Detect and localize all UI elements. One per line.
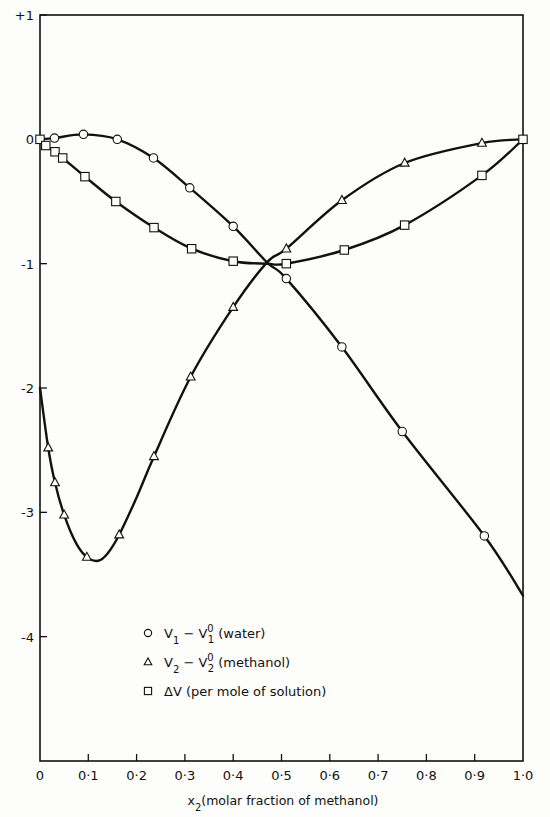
triangle-marker-icon	[60, 510, 69, 518]
x-tick-label: 0·9	[464, 768, 485, 783]
square-marker-icon	[59, 154, 67, 162]
x-tick-label: 0·3	[175, 768, 196, 783]
x-tick-label: 0·6	[319, 768, 340, 783]
y-tick-label: -4	[21, 630, 34, 645]
square-marker-icon	[187, 245, 195, 253]
square-marker-icon	[229, 257, 237, 265]
square-marker-icon	[51, 148, 59, 156]
x-tick-label: 0·7	[368, 768, 389, 783]
y-tick-label: +1	[15, 8, 34, 23]
x-tick-label: 0	[36, 768, 44, 783]
legend-label: V1 − V01 (water)	[164, 623, 265, 646]
circle-marker-icon	[480, 532, 488, 540]
x-tick-label: 0·1	[78, 768, 99, 783]
square-marker-icon	[400, 221, 408, 229]
plot-border	[40, 15, 523, 761]
x-tick-label: 0·8	[416, 768, 437, 783]
circle-marker-icon	[149, 154, 157, 162]
square-marker-icon	[42, 141, 50, 149]
square-marker-icon	[340, 246, 348, 254]
circle-marker-icon	[186, 184, 194, 192]
square-marker-icon	[81, 172, 89, 180]
legend-label: ΔV (per mole of solution)	[164, 684, 326, 699]
circle-marker-icon	[50, 134, 58, 142]
triangle-marker-icon	[51, 478, 60, 486]
x-axis-ticks: 00·10·20·30·40·50·60·70·80·91·0	[36, 754, 533, 783]
y-tick-label: -3	[21, 505, 34, 520]
x-axis-title-text: x2(molar fraction of methanol)	[187, 793, 378, 813]
square-marker-icon	[478, 171, 486, 179]
y-tick-label: -2	[21, 381, 34, 396]
triangle-marker-icon	[44, 443, 53, 451]
y-tick-label: 0	[26, 132, 34, 147]
square-marker-icon	[282, 259, 290, 267]
chart-canvas: +10-1-2-3-4 00·10·20·30·40·50·60·70·80·9…	[0, 0, 550, 817]
circle-marker-icon	[282, 274, 290, 282]
y-axis-ticks: +10-1-2-3-4	[15, 8, 47, 645]
circle-marker-icon	[113, 135, 121, 143]
square-marker-icon	[519, 135, 527, 143]
square-marker-icon	[112, 197, 120, 205]
square-marker-icon	[150, 223, 158, 231]
triangle-marker-icon	[144, 658, 152, 665]
x-tick-label: 0·4	[223, 768, 244, 783]
y-tick-label: -1	[21, 257, 34, 272]
circle-marker-icon	[398, 427, 406, 435]
circle-marker-icon	[79, 130, 87, 138]
square-marker-icon	[144, 687, 151, 694]
x-tick-label: 1·0	[513, 768, 534, 783]
legend-label: V2 − V02 (methanol)	[164, 652, 290, 675]
x-tick-label: 0·2	[126, 768, 147, 783]
legend: V1 − V01 (water)V2 − V02 (methanol)ΔV (p…	[144, 623, 326, 699]
plot-frame	[40, 15, 523, 761]
x-tick-label: 0·5	[271, 768, 292, 783]
x-axis-title: x2(molar fraction of methanol)	[187, 793, 378, 813]
circle-marker-icon	[338, 343, 346, 351]
triangle-marker-icon	[150, 452, 159, 460]
circle-marker-icon	[144, 629, 151, 636]
circle-marker-icon	[229, 222, 237, 230]
